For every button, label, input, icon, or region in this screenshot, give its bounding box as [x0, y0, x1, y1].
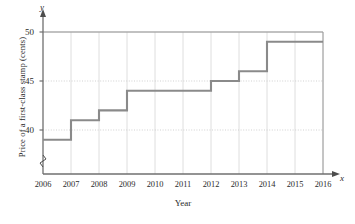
x-axis-arrow: [332, 171, 340, 177]
plot-area: [0, 0, 355, 224]
y-axis-arrow: [40, 9, 46, 17]
stamp-price-step-chart: Price of a first-class stamp (cents) Yea…: [0, 0, 355, 224]
vertical-gridlines: [71, 32, 323, 174]
